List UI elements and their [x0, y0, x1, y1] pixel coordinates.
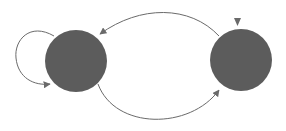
- state-node-left[interactable]: [45, 30, 107, 92]
- edge-right-to-left: [100, 12, 219, 36]
- initial-state-arrow-icon: [234, 18, 241, 26]
- state-diagram: [0, 0, 286, 131]
- edge-left-to-right: [98, 84, 219, 119]
- state-node-right[interactable]: [210, 29, 272, 91]
